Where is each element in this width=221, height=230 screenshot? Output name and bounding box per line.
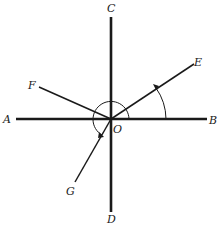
label-O: O: [113, 123, 122, 136]
angle-diagram: C D A B E F G O: [0, 0, 221, 230]
label-E: E: [193, 56, 202, 69]
ray-OE: [111, 64, 194, 119]
label-F: F: [27, 79, 36, 92]
ray-OG: [75, 119, 111, 182]
arc-angle-BOE: [156, 88, 166, 119]
label-G: G: [66, 185, 75, 198]
label-D: D: [106, 213, 116, 226]
arrowhead-E-icon: [153, 84, 159, 90]
ray-OF: [39, 87, 111, 119]
label-C: C: [107, 2, 116, 15]
label-B: B: [208, 114, 217, 127]
label-A: A: [2, 113, 11, 126]
